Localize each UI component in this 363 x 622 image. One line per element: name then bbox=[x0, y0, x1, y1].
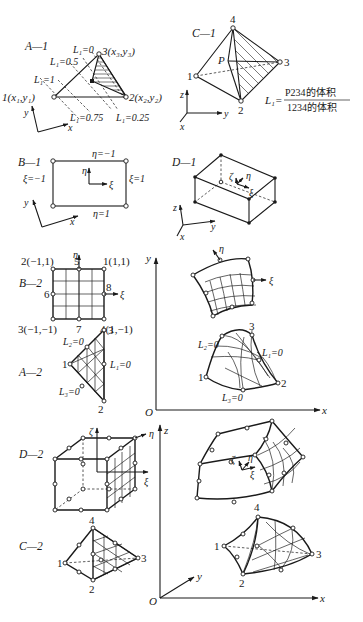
axis-label: z bbox=[179, 89, 184, 100]
axis-label: x bbox=[319, 592, 325, 604]
axis-label: ξ bbox=[269, 275, 274, 287]
panel-tag: B—1 bbox=[18, 156, 41, 168]
axis-label: ζ bbox=[89, 426, 94, 438]
axis-label: x bbox=[69, 216, 75, 227]
axis-label: ξ bbox=[109, 179, 114, 191]
panel-C2: C—2 4 1 2 3 bbox=[19, 514, 147, 595]
node-3 bbox=[278, 60, 282, 64]
panel-tag: A—2 bbox=[18, 366, 42, 378]
tet-edge bbox=[224, 546, 243, 574]
edge-label: L₁=0 bbox=[261, 347, 283, 358]
zeta-arrow bbox=[236, 178, 237, 184]
node-2 bbox=[239, 99, 243, 103]
axis-label: x bbox=[321, 404, 327, 416]
node-label: 2 bbox=[89, 583, 95, 595]
hex-edge bbox=[255, 421, 272, 491]
node-label: 2 bbox=[238, 104, 244, 116]
hex-edge bbox=[200, 434, 218, 464]
node-label: 2 bbox=[281, 377, 287, 389]
node-label: 2(−1,1) bbox=[21, 255, 54, 268]
node-1 bbox=[52, 95, 56, 99]
axis-label: y bbox=[196, 570, 202, 582]
axis-label: ξ bbox=[250, 469, 255, 481]
corner-node bbox=[51, 204, 55, 208]
edge-label: η=−1 bbox=[92, 148, 115, 159]
node-label: 3 bbox=[284, 56, 290, 68]
iso-label: L₁=1 bbox=[33, 74, 55, 85]
node-label: 8 bbox=[106, 281, 112, 293]
iso-label: L₁=0.75 bbox=[69, 112, 103, 123]
panel-B1: B—1 η=−1 η=1 ξ=−1 ξ=1 η ξ y x bbox=[18, 148, 145, 227]
edge-label: L₁=0 bbox=[109, 359, 131, 370]
node-2-label: 2(x₂,y₂) bbox=[129, 91, 162, 104]
p-edge bbox=[228, 61, 280, 62]
node-label: 3 bbox=[316, 548, 322, 560]
panel-tag: C—1 bbox=[192, 27, 216, 39]
axis-label: z bbox=[163, 424, 169, 436]
hex-edge bbox=[200, 455, 255, 464]
iso-label: L₁=0.5 bbox=[49, 56, 78, 67]
edge-label: L₃=0 bbox=[58, 386, 80, 397]
panel-A2: A—2 1 2 3 L₂=0 L₁=0 L₃=0 bbox=[18, 324, 131, 415]
axis-label: y bbox=[145, 252, 151, 264]
node-1-label: 1(x₁,y₁) bbox=[2, 91, 35, 104]
panel-tag: D—1 bbox=[171, 156, 196, 168]
hidden-edge bbox=[195, 182, 221, 202]
panel-B2: B—2 η ξ 2(−1,1) 1(1,1) 5 6 8 3(−1,−1) 7 … bbox=[18, 249, 133, 336]
node-3 bbox=[97, 52, 101, 56]
axis-label: x bbox=[179, 231, 185, 242]
iso-line bbox=[92, 52, 124, 98]
corner-node bbox=[51, 159, 55, 163]
eta-arrow bbox=[237, 178, 243, 184]
z-axis-arrow bbox=[180, 205, 183, 225]
node-label: 1 bbox=[214, 540, 220, 552]
panel-tag: A—1 bbox=[24, 40, 48, 52]
grid-lines bbox=[53, 269, 104, 319]
axis-label: x bbox=[67, 122, 73, 133]
node-label: 1(1,1) bbox=[103, 255, 130, 268]
edge-label: η=1 bbox=[93, 208, 110, 219]
box-outline bbox=[195, 177, 275, 223]
zeta-arrow bbox=[239, 461, 242, 470]
axis-label: η bbox=[246, 170, 251, 181]
node-2 bbox=[124, 95, 128, 99]
node-label: 1 bbox=[57, 557, 63, 569]
panel-mapped-2d: y x O η ξ bbox=[145, 243, 327, 418]
hidden-edge bbox=[224, 546, 312, 554]
axis-label: η bbox=[82, 165, 87, 176]
eta-arrow bbox=[135, 434, 146, 438]
axis-label: z bbox=[172, 202, 177, 213]
axis-label: y bbox=[23, 197, 29, 208]
y-axis-arrow bbox=[160, 577, 194, 598]
node-label: 4 bbox=[89, 514, 95, 526]
box-top-face bbox=[195, 155, 275, 199]
edge-label: L₂=0 bbox=[62, 336, 84, 347]
corner-node bbox=[124, 204, 128, 208]
axis-label: ξ bbox=[144, 476, 149, 488]
origin-label: O bbox=[149, 595, 157, 607]
iso-label: L₁=0.25 bbox=[115, 112, 149, 123]
axis-label: ξ bbox=[120, 289, 125, 301]
axis-label: y bbox=[223, 108, 229, 119]
iso-line bbox=[58, 80, 90, 112]
node-3-label: 3(x₃,y₃) bbox=[101, 45, 135, 58]
axis-label: η bbox=[248, 452, 253, 463]
point-p-label: P bbox=[217, 54, 225, 66]
node-label: 1 bbox=[198, 371, 204, 383]
node-label: 4 bbox=[230, 13, 236, 25]
edge-label: ξ=−1 bbox=[23, 173, 46, 185]
panel-C1: C—1 4 1 2 3 P z y x bbox=[179, 5, 350, 132]
interior-point bbox=[90, 79, 94, 83]
node-label: 4 bbox=[254, 501, 260, 513]
iso-label: L₁=0 bbox=[72, 44, 94, 55]
corner-node bbox=[124, 159, 128, 163]
y-axis-arrow bbox=[32, 106, 38, 132]
formula-numerator: P234的体积 bbox=[285, 86, 336, 98]
panel-mapped-3d: z x y O bbox=[149, 419, 325, 607]
node-label: 1 bbox=[62, 358, 68, 370]
hex-edge bbox=[272, 421, 303, 491]
x-axis-arrow bbox=[38, 124, 68, 132]
tet-edge bbox=[224, 517, 258, 546]
origin-label: O bbox=[145, 406, 153, 418]
node-label: 3 bbox=[108, 324, 114, 336]
